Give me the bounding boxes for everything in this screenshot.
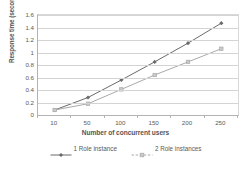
data-point-marker — [219, 21, 223, 25]
data-point-marker — [220, 47, 223, 50]
chart-legend: 1 Role instance2 Role instances — [0, 145, 251, 153]
x-axis-tick-label: 250 — [205, 119, 235, 127]
legend-entry-1: 1 Role instance — [50, 145, 117, 153]
x-axis-tickmark — [104, 115, 105, 118]
legend-entry-2: 2 Role instances — [131, 145, 202, 153]
response-time-line-chart: Response time (seconds) 00.20.40.60.811.… — [0, 0, 251, 170]
plot-area — [37, 14, 239, 116]
x-axis-tick-label: 150 — [139, 119, 169, 127]
x-axis-tick-label: 10 — [39, 119, 69, 127]
diamond-marker-icon — [50, 145, 72, 153]
data-point-marker — [119, 78, 123, 82]
y-axis-tick-label: 1.6 — [12, 11, 34, 18]
data-point-marker — [153, 60, 157, 64]
gridline — [38, 65, 238, 66]
gridline — [38, 15, 238, 16]
series-line — [55, 23, 222, 110]
x-axis-tick-label: 50 — [72, 119, 102, 127]
legend-label: 2 Role instances — [155, 145, 202, 153]
y-axis-tick-label: 0.4 — [12, 86, 34, 93]
data-point-marker — [186, 60, 189, 63]
gridline — [38, 28, 238, 29]
x-axis-tick-labels: 1050100150200250 — [37, 115, 238, 129]
x-axis-tickmark — [237, 115, 238, 118]
data-point-marker — [53, 108, 56, 111]
series-1 — [53, 21, 224, 112]
square-marker-icon — [131, 145, 153, 153]
y-axis-tick-label: 1.2 — [12, 36, 34, 43]
y-axis-tick-label: 0.2 — [12, 98, 34, 105]
gridline — [38, 78, 238, 79]
x-axis-tickmark — [70, 115, 71, 118]
gridline — [38, 90, 238, 91]
data-point-marker — [86, 95, 90, 99]
data-point-marker — [153, 73, 156, 76]
x-axis-tickmark — [170, 115, 171, 118]
y-axis-tick-label: 1 — [12, 48, 34, 55]
y-axis-tick-label: 0.8 — [12, 61, 34, 68]
y-axis-tick-labels: 00.20.40.60.811.21.41.6 — [12, 8, 34, 120]
y-axis-tick-label: 1.4 — [12, 23, 34, 30]
y-axis-tick-label: 0 — [12, 111, 34, 118]
x-axis-tickmark — [137, 115, 138, 118]
x-axis-tick-label: 200 — [172, 119, 202, 127]
x-axis-tickmark — [37, 115, 38, 118]
x-axis-title: Number of concurrent users — [0, 129, 251, 136]
gridline — [38, 53, 238, 54]
legend-label: 1 Role instance — [74, 145, 117, 153]
data-point-marker — [186, 41, 190, 45]
x-axis-tick-label: 100 — [105, 119, 135, 127]
x-axis-tickmark — [204, 115, 205, 118]
gridline — [38, 40, 238, 41]
y-axis-tick-label: 0.6 — [12, 73, 34, 80]
gridline — [38, 103, 238, 104]
